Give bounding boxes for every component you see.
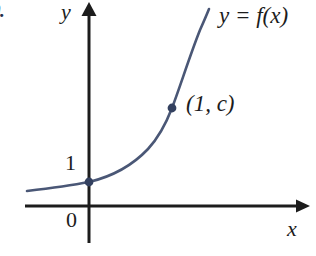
graph-canvas xyxy=(0,0,316,256)
x-axis-label: x xyxy=(287,218,297,240)
y-axis-arrowhead xyxy=(82,2,97,16)
marked-point xyxy=(168,104,177,113)
exponential-graph-figure: 0. y x 0 1 (1, c) y = f(x) xyxy=(0,0,316,256)
y-axis-label: y xyxy=(61,1,71,23)
problem-number: 0. xyxy=(0,1,4,20)
x-axis-arrowhead xyxy=(296,200,310,213)
function-curve xyxy=(27,9,209,191)
y-intercept-point xyxy=(85,178,94,187)
function-equation-label: y = f(x) xyxy=(219,4,288,27)
marked-point-label: (1, c) xyxy=(186,92,235,115)
origin-label: 0 xyxy=(66,209,77,231)
y-intercept-label: 1 xyxy=(65,152,76,174)
